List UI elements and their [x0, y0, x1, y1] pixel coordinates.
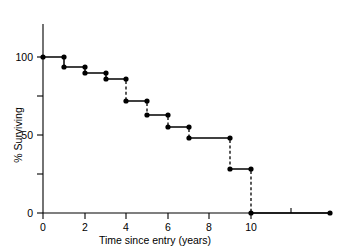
- marker-point: [227, 135, 232, 140]
- marker-point: [61, 54, 66, 59]
- x-tick-label-0: 0: [40, 221, 46, 233]
- x-tick-label-2: 2: [82, 221, 88, 233]
- marker-point: [82, 64, 87, 69]
- survival-chart-svg: 100 50 0 0 2 4 6 8 10 Time since entry (…: [0, 0, 343, 250]
- marker-point: [144, 98, 149, 103]
- x-tick-label-10: 10: [245, 221, 257, 233]
- marker-point: [165, 124, 170, 129]
- x-tick-label-6: 6: [165, 221, 171, 233]
- marker-point: [186, 135, 191, 140]
- marker-point: [123, 98, 128, 103]
- y-tick-label-0: 0: [27, 207, 33, 219]
- x-tick-label-8: 8: [206, 221, 212, 233]
- marker-point: [103, 76, 108, 81]
- x-tick-label-4: 4: [123, 221, 129, 233]
- x-axis-title: Time since entry (years): [99, 234, 211, 246]
- marker-point: [123, 76, 128, 81]
- marker-point: [248, 210, 253, 215]
- marker-point: [165, 112, 170, 117]
- marker-point: [248, 166, 253, 171]
- marker-point: [327, 210, 332, 215]
- marker-point: [227, 166, 232, 171]
- marker-point: [103, 70, 108, 75]
- marker-point: [186, 124, 191, 129]
- marker-point: [82, 70, 87, 75]
- y-axis-title: % Surviving: [12, 107, 24, 163]
- survival-chart-figure: 100 50 0 0 2 4 6 8 10 Time since entry (…: [0, 0, 343, 250]
- marker-point: [144, 112, 149, 117]
- marker-point: [40, 54, 45, 59]
- marker-point: [61, 64, 66, 69]
- y-tick-label-100: 100: [15, 51, 33, 63]
